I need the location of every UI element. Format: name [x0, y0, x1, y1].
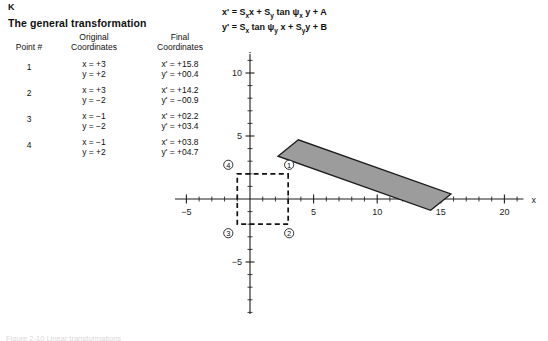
eq1-part-0: x' = S [222, 7, 245, 17]
point-marker-label-1: 1 [287, 161, 291, 170]
eq2-part-0: y' = S [222, 22, 245, 32]
cell-original-y: y = +2 [57, 69, 131, 79]
x-tick-label: 15 [436, 207, 446, 217]
x-tick-label: −5 [181, 207, 191, 217]
x-tick-label: 20 [499, 207, 509, 217]
eq2-part-5: y [302, 27, 306, 34]
eq1-part-3: y [270, 12, 274, 19]
equation-y-prime: y' = Sx tan ψy x + Syy + B [222, 20, 327, 35]
column-header-point-label: Point # [11, 43, 47, 53]
eq2-part-3: y [274, 27, 278, 34]
cell-original-y: y = −2 [57, 95, 131, 105]
cell-point-number: 3 [6, 105, 52, 131]
cell-original-y: y = +2 [57, 147, 131, 157]
cell-original-coordinates: x = −1 y = −2 [52, 105, 136, 131]
column-header-original: Original Coordinates [52, 33, 136, 53]
tick-marks-group [175, 60, 517, 314]
equation-x-prime: x' = Sxx + Sy tan ψx y + A [222, 5, 327, 20]
eq2-part-1: x [245, 27, 249, 34]
eq1-part-4: tan ψ [274, 7, 299, 17]
tick-labels-group: −55101520−10−5510 [181, 68, 509, 314]
transformation-equations: x' = Sxx + Sy tan ψx y + A y' = Sx tan ψ… [222, 5, 327, 35]
cell-point-number: 1 [6, 53, 52, 79]
point-marker-label-2: 2 [287, 229, 291, 238]
column-header-original-line2: Coordinates [57, 43, 131, 53]
eq1-part-5: x [299, 12, 303, 19]
cell-original-y: y = −2 [57, 121, 131, 131]
y-tick-label: 5 [237, 131, 242, 141]
y-tick-label: 10 [232, 68, 242, 78]
cell-original-coordinates: x = −1 y = +2 [52, 131, 136, 157]
eq2-part-2: tan ψ [249, 22, 274, 32]
column-header-final: Final Coordinates [136, 33, 224, 53]
figure-caption: Figure 2-10 Linear transformations [6, 334, 121, 341]
point-marker-label-4: 4 [226, 161, 230, 170]
x-tick-label: 5 [311, 207, 316, 217]
panel-letter-label: K [8, 2, 15, 12]
cell-original-x: x = −1 [57, 111, 131, 121]
eq2-part-6: y + B [305, 22, 327, 32]
cell-point-number: 4 [6, 131, 52, 157]
cell-original-x: x = −1 [57, 137, 131, 147]
page-title: The general transformation [8, 17, 147, 29]
column-header-final-line2: Coordinates [141, 43, 219, 53]
table-header-row: Point # Original Coordinates Final Coord… [6, 33, 224, 53]
eq1-part-1: x [245, 12, 249, 19]
y-axis-label: y [249, 52, 254, 53]
transformation-plot: 1234 −55101520−10−5510 xy [175, 52, 548, 314]
x-axis-label: x [531, 195, 536, 205]
axes-group [175, 54, 523, 314]
column-header-point: Point # [6, 33, 52, 53]
x-tick-label: 10 [372, 207, 382, 217]
plot-canvas: 1234 −55101520−10−5510 xy [175, 52, 548, 314]
eq2-part-4: x + S [278, 22, 302, 32]
cell-original-coordinates: x = +3 y = −2 [52, 79, 136, 105]
cell-original-x: x = +3 [57, 59, 131, 69]
eq1-part-2: x + S [249, 7, 270, 17]
cell-point-number: 2 [6, 79, 52, 105]
eq1-part-6: y + A [303, 7, 327, 17]
point-marker-label-3: 3 [226, 229, 230, 238]
y-tick-label: −5 [232, 257, 242, 267]
cell-original-coordinates: x = +3 y = +2 [52, 53, 136, 79]
cell-original-x: x = +3 [57, 85, 131, 95]
